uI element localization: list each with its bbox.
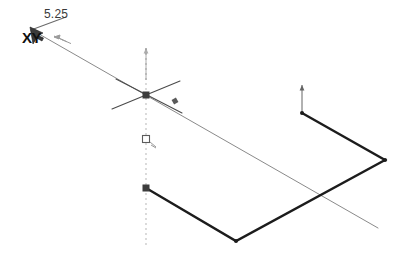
vertex-profile-bottom[interactable] <box>234 239 238 243</box>
midpoint-constraint-marker[interactable] <box>172 98 179 105</box>
coincident-constraint-marker[interactable] <box>143 136 157 149</box>
vertex-profile-right[interactable] <box>383 158 387 162</box>
axis-arrow-group <box>144 48 305 112</box>
sketch-viewport[interactable]: 5.25 XY <box>0 0 409 262</box>
sketch-canvas[interactable] <box>0 0 409 262</box>
constraint-tail-icon <box>150 142 156 148</box>
drag-ghost-arrowhead-icon <box>54 35 60 39</box>
drag-ghost-arrows <box>54 35 71 44</box>
drag-ghost-stroke <box>62 40 71 44</box>
diagonal-construction-line[interactable] <box>32 30 378 228</box>
dimension-value-label[interactable]: 5.25 <box>44 8 68 20</box>
origin-axis-arrow <box>144 48 149 80</box>
arrow-head-icon <box>144 48 149 54</box>
sketch-profile[interactable] <box>146 113 385 241</box>
arrow-head-icon <box>300 85 305 91</box>
vertex-profile-end[interactable] <box>300 111 304 115</box>
vertex-origin[interactable] <box>143 92 150 99</box>
constraint-square <box>143 136 150 143</box>
vertex-profile-start[interactable] <box>143 185 150 192</box>
plane-label-xy[interactable]: XY <box>22 30 41 45</box>
profile-axis-arrow <box>300 85 305 112</box>
